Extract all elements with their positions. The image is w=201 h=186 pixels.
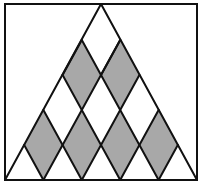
shaded-rhombus (101, 40, 139, 110)
shaded-rhombus (101, 110, 139, 180)
shaded-rhombus (63, 40, 101, 110)
shaded-rhombi (24, 40, 178, 180)
shaded-rhombus (24, 110, 62, 180)
shaded-rhombus (139, 110, 177, 180)
rhombus-triangle-figure (0, 0, 201, 186)
shaded-rhombus (63, 110, 101, 180)
